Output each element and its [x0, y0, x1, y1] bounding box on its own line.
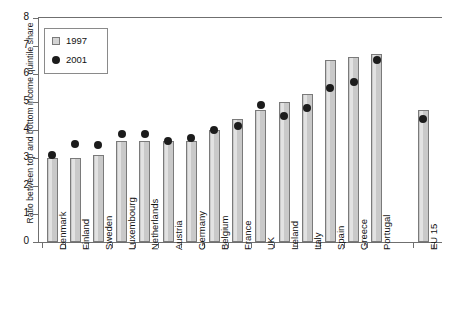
- bar-austria: [163, 141, 174, 242]
- x-label-austria: Austria: [173, 220, 184, 250]
- x-label-germany: Germany: [196, 211, 207, 250]
- y-tick: [33, 102, 39, 103]
- plot-top-border: [38, 17, 442, 18]
- square-swatch-icon: [52, 37, 60, 45]
- y-tick-label: 4: [14, 123, 29, 134]
- bar-uk: [255, 110, 266, 242]
- dot-eu-15: [419, 115, 427, 123]
- x-label-belgium: Belgium: [219, 216, 230, 250]
- x-label-italy: Italy: [312, 233, 323, 250]
- dot-italy: [303, 104, 311, 112]
- x-label-portugal: Portugal: [381, 215, 392, 250]
- bar-ireland: [279, 102, 290, 242]
- x-tick: [413, 243, 414, 248]
- y-tick: [33, 214, 39, 215]
- y-tick: [33, 186, 39, 187]
- bar-italy: [302, 94, 313, 242]
- x-label-spain: Spain: [335, 226, 346, 250]
- x-label-greece: Greece: [358, 219, 369, 250]
- dot-netherlands: [141, 130, 149, 138]
- y-tick: [33, 130, 39, 131]
- x-label-denmark: Denmark: [57, 211, 68, 250]
- dot-ireland: [280, 112, 288, 120]
- bar-eu-15: [418, 110, 429, 242]
- dot-finland: [71, 140, 79, 148]
- y-tick: [33, 242, 39, 243]
- x-label-uk: UK: [265, 237, 276, 250]
- legend-label-2001: 2001: [66, 54, 87, 65]
- dot-swatch-icon: [52, 56, 60, 64]
- dot-sweden: [94, 141, 102, 149]
- x-label-netherlands: Netherlands: [149, 199, 160, 250]
- y-tick-label: 3: [14, 151, 29, 162]
- y-tick: [33, 74, 39, 75]
- dot-greece: [350, 78, 358, 86]
- dot-luxembourg: [118, 130, 126, 138]
- y-tick-label: 8: [14, 11, 29, 22]
- x-tick: [42, 243, 43, 248]
- chart-legend: 1997 2001: [44, 28, 108, 74]
- y-tick-label: 1: [14, 207, 29, 218]
- x-label-finland: Finland: [80, 219, 91, 250]
- dot-portugal: [373, 56, 381, 64]
- y-tick: [33, 158, 39, 159]
- dot-france: [234, 122, 242, 130]
- bar-denmark: [47, 158, 58, 242]
- x-label-ireland: Ireland: [289, 221, 300, 250]
- x-label-sweden: Sweden: [103, 216, 114, 250]
- y-tick-label: 6: [14, 67, 29, 78]
- y-tick-label: 7: [14, 39, 29, 50]
- y-tick-label: 5: [14, 95, 29, 106]
- x-label-luxembourg: Luxembourg: [126, 197, 137, 250]
- dot-uk: [257, 101, 265, 109]
- income-quintile-ratio-chart: Ratio between top and bottom income quin…: [0, 0, 451, 313]
- y-tick-label: 0: [14, 235, 29, 246]
- legend-label-1997: 1997: [66, 35, 87, 46]
- x-label-eu-15: EU 15: [428, 224, 439, 250]
- y-tick: [33, 46, 39, 47]
- y-tick: [33, 18, 39, 19]
- x-label-france: France: [242, 220, 253, 250]
- y-tick-label: 2: [14, 179, 29, 190]
